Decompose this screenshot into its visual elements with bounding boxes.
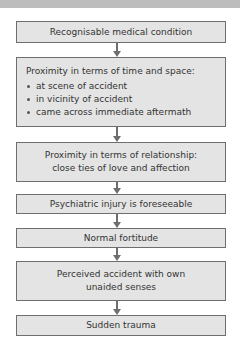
node-label: Proximity in terms of time and space: — [26, 65, 225, 78]
bullet-list: at scene of accident in vicinity of acci… — [26, 80, 225, 119]
node-perceived-accident: Perceived accident with own unaided sens… — [16, 261, 226, 301]
node-normal-fortitude: Normal fortitude — [16, 228, 226, 248]
node-proximity-time-space: Proximity in terms of time and space: at… — [16, 57, 226, 127]
node-label: Normal fortitude — [17, 232, 225, 245]
node-label: Psychiatric injury is foreseeable — [17, 198, 225, 211]
bullet-item: came across immediate aftermath — [26, 106, 225, 119]
bullet-item: in vicinity of accident — [26, 93, 225, 106]
node-label-line2: close ties of love and affection — [17, 162, 225, 175]
bullet-item: at scene of accident — [26, 80, 225, 93]
node-label: Sudden trauma — [17, 319, 225, 332]
node-psychiatric-injury-foreseeable: Psychiatric injury is foreseeable — [16, 194, 226, 214]
node-sudden-trauma: Sudden trauma — [16, 315, 226, 336]
top-band — [0, 0, 240, 8]
node-label-line2: unaided senses — [17, 281, 225, 294]
node-proximity-relationship: Proximity in terms of relationship: clos… — [16, 142, 226, 182]
node-label: Recognisable medical condition — [17, 26, 225, 39]
node-label-line1: Proximity in terms of relationship: — [17, 149, 225, 162]
node-recognisable-medical-condition: Recognisable medical condition — [16, 21, 226, 43]
node-label-line1: Perceived accident with own — [17, 268, 225, 281]
